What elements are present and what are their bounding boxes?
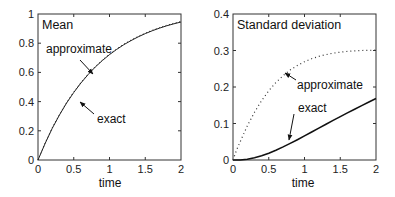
mean-ytick-1: 1 — [28, 8, 34, 20]
std-annotation-exact: exact — [298, 101, 327, 115]
mean-xtick-0.5: 0.5 — [66, 163, 81, 175]
mean-ytick-0.4: 0.4 — [19, 96, 34, 108]
std-xtick-1.5: 1.5 — [333, 163, 348, 175]
std-xtick-0.5: 0.5 — [261, 163, 276, 175]
std-xtick-0: 0 — [230, 163, 236, 175]
mean-xtick-1: 1 — [106, 163, 112, 175]
std-exact-arrow-icon — [289, 114, 294, 140]
mean-annotation-exact: exact — [97, 112, 126, 126]
std-xtick-2: 2 — [373, 163, 379, 175]
std-annotation-approximate: approximate — [297, 78, 363, 92]
mean-approx-arrow-icon — [80, 60, 93, 74]
mean-xtick-1.5: 1.5 — [138, 163, 153, 175]
mean-annotation-approximate: approximate — [46, 42, 112, 56]
std-ytick-0.1: 0.1 — [214, 118, 229, 130]
std-plot: 0 0.1 0.2 0.3 0.4 0 0.5 1 1.5 2 time Sta… — [214, 8, 379, 190]
std-ytick-0: 0 — [223, 154, 229, 166]
mean-xlabel: time — [99, 176, 122, 190]
mean-ytick-0: 0 — [28, 154, 34, 166]
std-ytick-0.3: 0.3 — [214, 45, 229, 57]
std-approx-arrow-icon — [285, 73, 296, 80]
std-title: Standard deviation — [237, 18, 341, 32]
std-ytick-0.4: 0.4 — [214, 8, 229, 20]
mean-ytick-0.6: 0.6 — [19, 66, 34, 78]
mean-xtick-0: 0 — [35, 163, 41, 175]
std-xtick-1: 1 — [301, 163, 307, 175]
mean-title: Mean — [42, 18, 73, 32]
mean-plot: 0 0.2 0.4 0.6 0.8 1 0 0.5 1 1.5 2 time M… — [19, 8, 184, 190]
mean-ytick-0.8: 0.8 — [19, 37, 34, 49]
std-xlabel: time — [292, 176, 315, 190]
mean-xtick-2: 2 — [178, 163, 184, 175]
figure: 0 0.2 0.4 0.6 0.8 1 0 0.5 1 1.5 2 time M… — [0, 0, 395, 197]
mean-axes-box — [38, 14, 181, 160]
mean-tick-marks — [38, 14, 181, 160]
mean-ytick-0.2: 0.2 — [19, 125, 34, 137]
mean-exact-arrow-icon — [80, 102, 94, 114]
std-ytick-0.2: 0.2 — [214, 81, 229, 93]
